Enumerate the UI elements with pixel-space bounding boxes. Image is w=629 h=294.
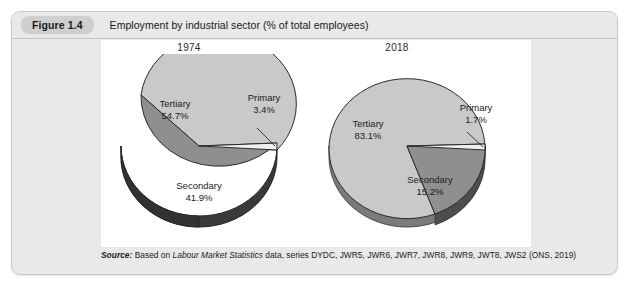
figure-panel: Figure 1.4 Employment by industrial sect… <box>11 11 618 275</box>
figure-body: 1974 Tertiary 54. <box>12 40 617 275</box>
pie-chart-2018: 2018 Tertiary 83. <box>315 40 515 240</box>
source-rest: data, series DYDC, JWR5, JWR6, JWR7, JWR… <box>263 250 576 260</box>
source-lead: Based on <box>132 250 172 260</box>
chart-year-label-1974: 1974 <box>89 42 289 53</box>
chart-canvas: 1974 Tertiary 54. <box>101 40 531 247</box>
source-prefix: Source: <box>101 250 132 260</box>
source-publication: Labour Market Statistics <box>173 250 263 260</box>
figure-source-note: Source: Based on Labour Market Statistic… <box>101 250 618 260</box>
chart-year-label-2018: 2018 <box>297 42 497 53</box>
pie-svg-2018 <box>315 54 515 240</box>
pie-chart-1974: 1974 Tertiary 54. <box>107 40 307 240</box>
figure-number-badge: Figure 1.4 <box>21 16 94 34</box>
pie-svg-1974 <box>107 54 307 240</box>
figure-header: Figure 1.4 Employment by industrial sect… <box>12 12 617 39</box>
figure-title: Employment by industrial sector (% of to… <box>110 19 369 31</box>
